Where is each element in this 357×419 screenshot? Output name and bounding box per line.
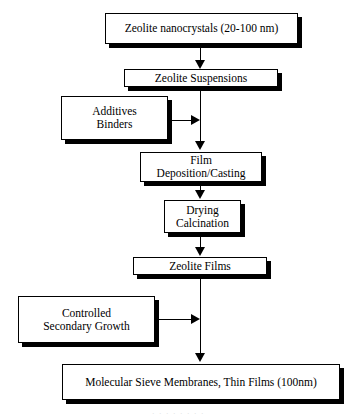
node-zeolite-suspensions: Zeolite Suspensions bbox=[124, 69, 278, 87]
flowchart-canvas: Zeolite nanocrystals (20-100 nm) Zeolite… bbox=[0, 0, 357, 419]
node-film-deposition-casting: Film Deposition/Casting bbox=[140, 152, 262, 182]
arrowhead-suspensions-to-deposition bbox=[195, 141, 205, 150]
node-zeolite-nanocrystals: Zeolite nanocrystals (20-100 nm) bbox=[105, 13, 298, 44]
node-controlled-secondary-growth-label: Controlled Secondary Growth bbox=[39, 307, 134, 333]
node-additives-binders-label: Additives Binders bbox=[88, 105, 141, 131]
node-additives-binders: Additives Binders bbox=[61, 96, 168, 140]
connector-suspensions-to-deposition bbox=[200, 87, 201, 143]
node-controlled-secondary-growth: Controlled Secondary Growth bbox=[18, 296, 155, 343]
node-molecular-sieve-membranes: Molecular Sieve Membranes, Thin Films (1… bbox=[62, 364, 340, 400]
node-zeolite-nanocrystals-label: Zeolite nanocrystals (20-100 nm) bbox=[121, 22, 283, 35]
node-zeolite-films: Zeolite Films bbox=[133, 257, 267, 275]
arrowhead-deposition-to-drying bbox=[195, 190, 205, 199]
arrowhead-drying-to-films bbox=[195, 247, 205, 256]
node-drying-calcination-label: Drying Calcination bbox=[172, 204, 233, 230]
node-zeolite-films-label: Zeolite Films bbox=[165, 260, 235, 273]
node-zeolite-suspensions-label: Zeolite Suspensions bbox=[151, 72, 251, 85]
arrowhead-secondary-growth-to-trunk bbox=[191, 314, 200, 324]
arrowhead-nanocrystals-to-suspensions bbox=[195, 60, 205, 69]
arrowhead-additives-to-trunk bbox=[191, 115, 200, 125]
connector-secondary-growth-to-trunk bbox=[159, 319, 194, 320]
arrowhead-films-to-membranes bbox=[195, 353, 205, 362]
connector-films-to-membranes bbox=[200, 275, 201, 355]
node-molecular-sieve-membranes-label: Molecular Sieve Membranes, Thin Films (1… bbox=[81, 376, 321, 389]
clipped-caption-remnant: . . . . . . . . bbox=[0, 407, 357, 417]
node-film-deposition-casting-label: Film Deposition/Casting bbox=[141, 154, 261, 180]
node-drying-calcination: Drying Calcination bbox=[164, 200, 241, 233]
